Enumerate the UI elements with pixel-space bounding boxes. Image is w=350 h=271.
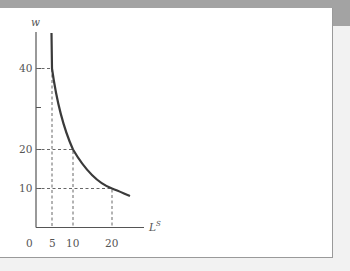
guide-20-10 <box>36 189 112 228</box>
y-tick-label-20: 20 <box>19 143 32 155</box>
x-tick-label-0: 0 <box>26 237 33 249</box>
labor-supply-curve <box>52 33 131 196</box>
x-tick-label-20: 20 <box>105 237 118 249</box>
y-axis-label: w <box>31 16 40 28</box>
x-axis-label: LS <box>148 220 161 233</box>
y-tick-label-40: 40 <box>19 62 32 74</box>
y-tick-label-10: 10 <box>19 182 32 194</box>
guide-5-40 <box>36 69 52 228</box>
x-tick-label-5: 5 <box>49 237 56 249</box>
x-tick-label-10: 10 <box>66 237 79 249</box>
labor-supply-chart: w 40 20 10 0 5 10 20 LS <box>0 0 350 271</box>
